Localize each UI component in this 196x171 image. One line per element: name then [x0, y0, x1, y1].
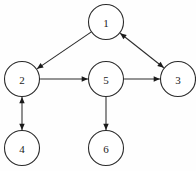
edge-2-4-arrowhead-from [19, 97, 24, 103]
edge-1-3 [120, 33, 164, 68]
edge-1-2-line [37, 32, 91, 69]
graph-node-3-label: 3 [175, 74, 181, 86]
graph-node-6[interactable]: 6 [89, 131, 124, 166]
graph-node-4[interactable]: 4 [5, 131, 40, 166]
graph-svg: 123456 [0, 0, 196, 171]
nodes-layer: 123456 [5, 5, 196, 166]
graph-diagram-canvas: 123456 [0, 0, 196, 171]
edge-2-5-arrowhead-to [82, 76, 88, 81]
graph-node-3[interactable]: 3 [161, 62, 196, 97]
graph-node-6-label: 6 [103, 143, 109, 155]
graph-node-1[interactable]: 1 [89, 5, 124, 40]
graph-node-1-label: 1 [103, 17, 109, 29]
edge-1-3-arrowhead-from [120, 33, 127, 39]
edge-1-2 [37, 32, 91, 69]
graph-node-4-label: 4 [19, 143, 25, 155]
edge-5-3-arrowhead-to [154, 76, 160, 81]
edge-2-4-arrowhead-to [19, 124, 24, 130]
graph-node-5[interactable]: 5 [89, 62, 124, 97]
edge-2-4 [19, 97, 24, 130]
edge-1-2-arrowhead-to [37, 63, 44, 69]
edge-1-3-arrowhead-to [157, 62, 164, 68]
edge-1-3-line [120, 33, 164, 68]
edge-5-3 [124, 76, 160, 81]
graph-node-5-label: 5 [103, 74, 109, 86]
edge-2-5 [40, 76, 88, 81]
graph-node-2-label: 2 [19, 74, 25, 86]
edge-5-6-arrowhead-to [103, 124, 108, 130]
graph-node-2[interactable]: 2 [5, 62, 40, 97]
edge-5-6 [103, 97, 108, 130]
